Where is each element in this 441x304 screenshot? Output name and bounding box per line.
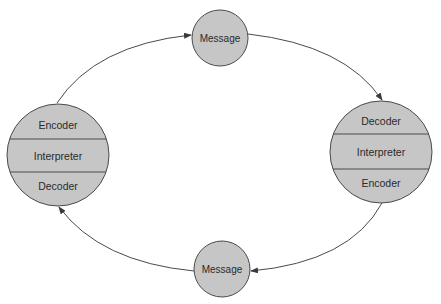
- arrow-top-message-to-right: [248, 34, 382, 100]
- arrow-bottom-message-to-left: [59, 207, 194, 271]
- bottom-message-label: Message: [202, 264, 243, 275]
- left-communicator-node: Encoder Interpreter Decoder: [0, 104, 120, 206]
- arrow-right-to-bottom-message: [251, 203, 382, 271]
- right-layer-interpreter: Interpreter: [357, 146, 406, 158]
- left-layer-interpreter: Interpreter: [34, 150, 83, 162]
- right-layer-encoder: Encoder: [361, 177, 401, 189]
- right-communicator-node: Decoder Interpreter Encoder: [320, 101, 440, 203]
- top-message-node: Message: [192, 10, 248, 66]
- arrow-left-to-top-message: [57, 35, 191, 103]
- right-layer-decoder: Decoder: [361, 115, 401, 127]
- communication-cycle-diagram: Encoder Interpreter Decoder Decoder Inte…: [0, 0, 441, 304]
- top-message-label: Message: [200, 33, 241, 44]
- bottom-message-node: Message: [194, 241, 250, 297]
- left-layer-encoder: Encoder: [38, 119, 78, 131]
- left-layer-decoder: Decoder: [38, 180, 78, 192]
